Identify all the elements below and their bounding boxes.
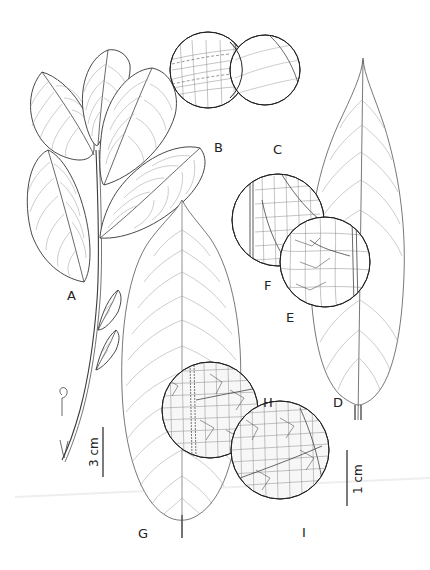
scale-bar-3cm: 3 cm [87, 427, 103, 477]
leaf-a7 [96, 330, 119, 370]
label-h: H [263, 395, 273, 410]
botanical-plate: A B C D E F G H I 3 cm 1 cm [0, 0, 430, 570]
label-c: C [273, 142, 282, 157]
label-a: A [67, 288, 76, 303]
detail-circle-i [231, 400, 329, 500]
leaf-a6 [98, 290, 121, 330]
leaf-a4 [27, 150, 90, 282]
label-b: B [214, 140, 223, 155]
label-g: G [138, 526, 148, 541]
scale-label-1cm: 1 cm [351, 464, 365, 494]
label-i: I [302, 525, 306, 540]
label-d: D [333, 395, 343, 410]
stipule-scar [60, 388, 67, 398]
scale-bar-1cm: 1 cm [347, 450, 365, 506]
label-e: E [286, 310, 294, 325]
scale-label-3cm: 3 cm [87, 437, 101, 467]
label-f: F [264, 278, 271, 293]
detail-circle-c [230, 35, 300, 105]
